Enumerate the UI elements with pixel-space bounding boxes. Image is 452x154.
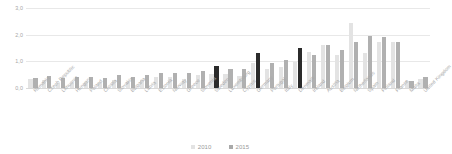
chart-legend: 20102015 [0, 144, 440, 150]
bar-group [221, 8, 235, 88]
bar-group [416, 8, 430, 88]
bar-group [137, 8, 151, 88]
bar-group [193, 8, 207, 88]
bar-group [26, 8, 40, 88]
bar-group [388, 8, 402, 88]
y-axis-tick-label: 0,0 [15, 85, 23, 91]
legend-item[interactable]: 2010 [191, 144, 212, 150]
bar-group [346, 8, 360, 88]
bar-2015 [382, 37, 386, 88]
bar-2010 [28, 79, 32, 88]
bar-2015 [354, 42, 358, 88]
bar-group [151, 8, 165, 88]
y-axis-tick-label: 3,0 [15, 5, 23, 11]
bar-group [402, 8, 416, 88]
y-axis-tick-label: 2,0 [15, 32, 23, 38]
bar-group [110, 8, 124, 88]
legend-swatch-icon [191, 145, 195, 149]
bar-group [332, 8, 346, 88]
bar-group [96, 8, 110, 88]
bar-2010 [293, 62, 297, 88]
legend-swatch-icon [229, 145, 233, 149]
bar-2015 [298, 48, 302, 88]
x-axis: RomaniaCzech RepublicLithuaniaHungaryPol… [26, 89, 430, 135]
bar-group [249, 8, 263, 88]
y-axis-tick-label: 1,0 [15, 58, 23, 64]
bar-group [319, 8, 333, 88]
legend-item[interactable]: 2015 [229, 144, 250, 150]
legend-label: 2010 [198, 144, 212, 150]
bar-group [291, 8, 305, 88]
bar-group [374, 8, 388, 88]
bar-group [165, 8, 179, 88]
bar-group [179, 8, 193, 88]
legend-label: 2015 [236, 144, 250, 150]
y-axis: 0,01,02,03,0 [0, 0, 26, 88]
